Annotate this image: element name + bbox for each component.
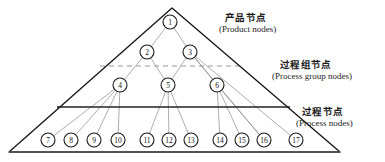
edge-2-to-5: [151, 58, 164, 79]
node-label-8: 8: [69, 136, 73, 145]
node-17[interactable]: 17: [289, 133, 303, 147]
node-label-16: 16: [260, 136, 268, 145]
node-label-10: 10: [114, 136, 122, 145]
edge-5-to-11: [149, 92, 165, 134]
edge-4-to-7: [54, 89, 115, 136]
legend-label-product-nodes-cn: 产品节点: [219, 13, 276, 24]
node-15[interactable]: 15: [235, 133, 249, 147]
legend-label-process-group-nodes: 过程组节点 (Process group nodes): [272, 60, 352, 81]
legend-label-process-nodes-cn: 过程节点: [296, 107, 353, 118]
node-label-5: 5: [166, 81, 170, 90]
edge-1-to-3: [174, 28, 186, 46]
node-label-4: 4: [118, 81, 122, 90]
node-16[interactable]: 16: [257, 133, 271, 147]
node-8[interactable]: 8: [64, 133, 78, 147]
node-4[interactable]: 4: [113, 78, 127, 92]
diagram-canvas: 1234567891011121314151617 产品节点 (Product …: [0, 0, 385, 162]
node-11[interactable]: 11: [140, 133, 154, 147]
node-label-2: 2: [145, 48, 149, 57]
legend-label-process-group-nodes-cn: 过程组节点: [272, 60, 352, 71]
node-7[interactable]: 7: [41, 133, 55, 147]
edge-6-to-14: [217, 92, 219, 133]
node-label-13: 13: [187, 136, 195, 145]
edge-6-to-15: [220, 91, 239, 133]
node-3[interactable]: 3: [183, 45, 197, 59]
legend-label-process-nodes-en: (Process nodes): [296, 118, 353, 128]
node-label-7: 7: [46, 136, 50, 145]
node-12[interactable]: 12: [162, 133, 176, 147]
pyramid-diagram: 1234567891011121314151617: [0, 0, 385, 162]
node-label-9: 9: [92, 136, 96, 145]
edge-4-to-8: [76, 90, 116, 135]
node-label-17: 17: [292, 136, 300, 145]
node-label-12: 12: [165, 136, 173, 145]
node-label-15: 15: [238, 136, 246, 145]
node-1[interactable]: 1: [163, 15, 177, 29]
legend-label-process-group-nodes-en: (Process group nodes): [272, 71, 352, 81]
edge-2-to-4: [124, 57, 142, 79]
node-label-1: 1: [168, 18, 172, 27]
node-label-14: 14: [216, 136, 224, 145]
edge-6-to-16: [222, 90, 260, 134]
edge-5-to-13: [171, 91, 189, 133]
node-13[interactable]: 13: [184, 133, 198, 147]
legend-label-product-nodes-en: (Product nodes): [219, 24, 276, 34]
node-label-6: 6: [215, 81, 219, 90]
node-10[interactable]: 10: [111, 133, 125, 147]
legend-label-product-nodes: 产品节点 (Product nodes): [219, 13, 276, 34]
node-14[interactable]: 14: [213, 133, 227, 147]
edge-1-to-2: [151, 28, 165, 47]
edge-4-to-9: [97, 91, 117, 133]
node-label-11: 11: [143, 136, 150, 145]
node-5[interactable]: 5: [161, 78, 175, 92]
node-2[interactable]: 2: [140, 45, 154, 59]
node-label-3: 3: [188, 48, 192, 57]
edge-5-to-12: [168, 92, 169, 133]
legend-label-process-nodes: 过程节点 (Process nodes): [296, 107, 353, 128]
edge-3-to-5: [172, 58, 186, 79]
edge-4-to-10: [118, 92, 119, 133]
nodes-layer: 1234567891011121314151617: [41, 15, 303, 147]
node-6[interactable]: 6: [210, 78, 224, 92]
node-9[interactable]: 9: [87, 133, 101, 147]
